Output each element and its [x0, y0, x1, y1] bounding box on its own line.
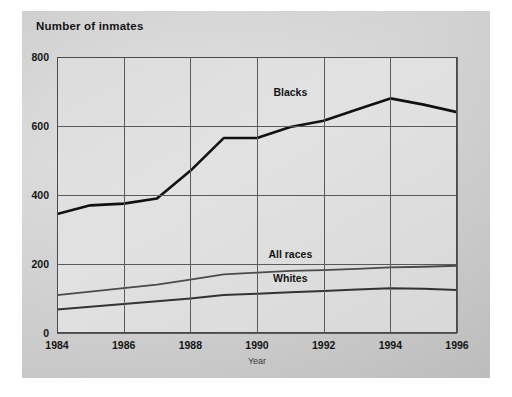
gridline-horizontal: [57, 333, 457, 334]
x-tick-label: 1992: [296, 339, 352, 351]
gridline-horizontal: [57, 57, 457, 58]
x-tick-label: 1986: [96, 339, 152, 351]
series-label-blacks: Blacks: [273, 86, 307, 98]
gridline-horizontal: [57, 126, 457, 127]
gridline-horizontal: [57, 264, 457, 265]
y-tick-label: 0: [9, 327, 49, 339]
x-axis-title: Year: [57, 356, 457, 366]
chart-title: Number of inmates: [36, 20, 144, 32]
x-tick-label: 1994: [362, 339, 418, 351]
series-label-all-races: All races: [268, 248, 312, 260]
y-tick-label: 600: [9, 120, 49, 132]
gridline-horizontal: [57, 195, 457, 196]
plot-area: [57, 57, 457, 333]
figure-root: Number of inmates 0200400600800 19841986…: [0, 0, 512, 397]
y-tick-label: 400: [9, 189, 49, 201]
gridline-vertical: [457, 57, 458, 333]
x-tick-label: 1990: [229, 339, 285, 351]
x-tick-label: 1984: [29, 339, 85, 351]
y-tick-label: 800: [9, 51, 49, 63]
x-tick-label: 1988: [162, 339, 218, 351]
y-tick-label: 200: [9, 258, 49, 270]
x-tick-label: 1996: [429, 339, 485, 351]
series-label-whites: Whites: [273, 272, 307, 284]
